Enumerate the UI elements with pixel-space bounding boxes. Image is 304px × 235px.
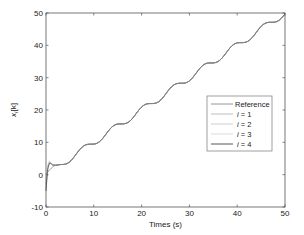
y-tick-label: 10 bbox=[34, 138, 43, 147]
x-axis-label: Times (s) bbox=[149, 220, 182, 229]
x-tick-label: 40 bbox=[233, 209, 242, 218]
y-axis-label: xi[k] bbox=[9, 103, 19, 118]
legend-label: i = 1 bbox=[237, 110, 251, 119]
y-tick-label: -10 bbox=[31, 203, 43, 212]
x-tick-labels: 01020304050 bbox=[44, 209, 290, 218]
y-tick-label: 40 bbox=[34, 41, 43, 50]
x-tick-label: 0 bbox=[44, 209, 49, 218]
y-axis-label-suffix: [k] bbox=[9, 103, 18, 111]
legend-label: i = 3 bbox=[237, 130, 251, 139]
x-tick-label: 10 bbox=[89, 209, 98, 218]
x-tick-label: 20 bbox=[137, 209, 146, 218]
line-chart: 01020304050 -1001020304050 Times (s) xi[… bbox=[0, 0, 304, 235]
legend-label: i = 4 bbox=[237, 140, 251, 149]
legend-label: i = 2 bbox=[237, 120, 251, 129]
y-tick-labels: -1001020304050 bbox=[31, 9, 43, 212]
y-tick-label: 30 bbox=[34, 74, 43, 83]
y-tick-label: 20 bbox=[34, 106, 43, 115]
x-tick-label: 50 bbox=[281, 209, 290, 218]
x-tick-label: 30 bbox=[185, 209, 194, 218]
y-tick-label: 0 bbox=[39, 171, 44, 180]
legend-label: Reference bbox=[235, 100, 270, 109]
y-tick-label: 50 bbox=[34, 9, 43, 18]
legend: Referencei = 1i = 2i = 3i = 4 bbox=[207, 96, 272, 151]
